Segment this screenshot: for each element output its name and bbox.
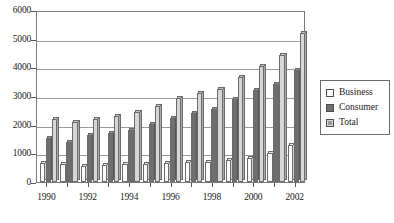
bar-business-1994 [122,164,127,182]
bar-group-1997 [185,12,202,182]
x-axis-tick-mark [171,183,172,187]
bar-group-1998 [205,12,222,182]
bar-group-1995 [143,12,160,182]
bar-side-face [305,31,307,180]
bar-consumer-1996 [170,118,175,182]
bar-face [191,113,196,182]
bar-face [205,162,210,182]
legend-label: Consumer [339,103,378,113]
bar-face [128,130,133,182]
bar-group-2001 [267,12,284,182]
bar-face [273,84,278,182]
bar-face [40,163,45,182]
bar-total-1993 [114,116,119,182]
bar-total-1990 [52,119,57,182]
bar-face [170,118,175,182]
x-axis-tick-mark [233,183,234,187]
x-axis-tick-mark [88,183,89,187]
bar-consumer-2000 [253,90,258,182]
bar-group-1996 [164,12,181,182]
bar-face [238,77,243,182]
plot-area [36,11,305,183]
bar-face [114,116,119,182]
bar-side-face [140,110,142,180]
bar-face [259,66,264,182]
bar-face [155,106,160,182]
y-axis-tick-label: 6000 [0,6,31,16]
x-axis-tick-mark [150,183,151,187]
x-axis-tick-mark [129,183,130,187]
bar-consumer-1992 [87,135,92,182]
business-swatch [326,89,334,97]
y-axis-tick-label: 5000 [0,35,31,45]
bar-face [197,93,202,182]
bar-top-face [115,114,120,116]
bar-business-2001 [267,153,272,182]
bar-consumer-2001 [273,84,278,182]
bar-side-face [285,53,287,180]
bar-face [176,98,181,182]
x-axis-tick-label: 2000 [244,193,262,203]
bar-consumer-1995 [149,124,154,182]
y-axis-tick-mark [31,68,36,69]
bar-face [211,109,216,182]
bar-total-1998 [217,89,222,182]
bar-consumer-1998 [211,109,216,182]
bar-face [46,138,51,182]
bar-face [72,122,77,182]
bar-total-1992 [93,119,98,182]
bar-business-1993 [102,165,107,182]
legend-label: Business [339,88,373,98]
bar-group-2002 [288,12,305,182]
y-axis-tick-label: 2000 [0,121,31,131]
x-axis-tick-mark [212,183,213,187]
bar-business-1992 [81,166,86,182]
bar-face [294,70,299,182]
y-axis-tick-mark [31,11,36,12]
x-axis-tick-mark [191,183,192,187]
y-axis-tick-label: 1000 [0,149,31,159]
bar-total-2002 [300,33,305,182]
y-axis-tick-label: 3000 [0,92,31,102]
chart-legend: BusinessConsumerTotal [320,80,390,135]
x-axis-tick-label: 2002 [286,193,304,203]
bar-total-1997 [197,93,202,182]
legend-item-consumer: Consumer [326,100,385,115]
x-axis-tick-label: 1990 [37,193,55,203]
bar-business-2002 [288,145,293,182]
bar-business-1999 [226,160,231,182]
bar-face [279,55,284,182]
bar-face [81,166,86,182]
bar-total-1995 [155,106,160,182]
bar-side-face [57,117,59,180]
bar-total-1996 [176,98,181,182]
bar-consumer-2002 [294,70,299,182]
x-axis-tick-label: 1996 [161,193,179,203]
y-axis-tick-mark [31,154,36,155]
bar-face [185,162,190,182]
bar-group-1991 [60,12,77,182]
x-axis-tick-mark [46,183,47,187]
legend-item-total: Total [326,115,385,130]
bar-side-face [243,75,245,180]
bar-face [226,160,231,182]
bar-consumer-1997 [191,113,196,182]
legend-label: Total [339,118,358,128]
bar-side-face [119,114,121,180]
y-axis-tick-label: 4000 [0,63,31,73]
bar-face [108,133,113,182]
bar-group-1999 [226,12,243,182]
total-swatch [326,119,334,127]
x-axis-tick-mark [295,183,296,187]
bar-business-2000 [247,158,252,182]
bar-total-2001 [279,55,284,182]
bar-business-1997 [185,162,190,182]
x-axis-tick-mark [253,183,254,187]
bar-chart: 6000500040003000200010000199019921994199… [0,0,394,223]
bar-top-face [94,117,99,119]
bar-side-face [223,87,225,180]
bar-total-2000 [259,66,264,182]
bar-business-1995 [143,164,148,182]
bar-face [300,33,305,182]
x-axis-tick-mark [108,183,109,187]
